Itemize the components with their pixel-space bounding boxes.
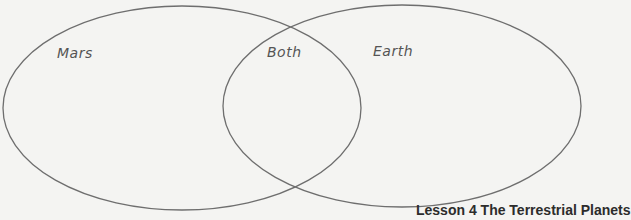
earth-ellipse (223, 5, 581, 207)
mars-ellipse (3, 6, 361, 210)
lesson-footer: Lesson 4 The Terrestrial Planets (416, 202, 631, 218)
mars-label: Mars (57, 45, 93, 61)
earth-label: Earth (373, 43, 413, 59)
both-label: Both (267, 44, 302, 60)
